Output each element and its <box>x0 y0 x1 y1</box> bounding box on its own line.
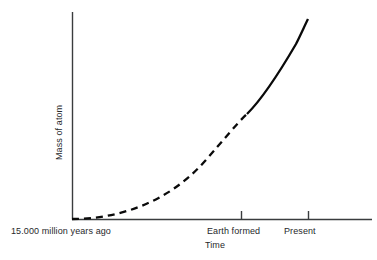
x-axis-label: Time <box>205 240 225 251</box>
x-tick-label-present: Present <box>284 226 316 237</box>
x-tick-label-earth-formed: Earth formed <box>207 226 260 237</box>
y-axis-label: Mass of atom <box>54 105 65 160</box>
data-curve-dashed <box>72 113 248 219</box>
data-curve-solid <box>247 19 308 114</box>
x-tick-label-origin: 15.000 million years ago <box>11 226 111 237</box>
chart-figure: Mass of atom Time 15.000 million years a… <box>0 0 377 260</box>
